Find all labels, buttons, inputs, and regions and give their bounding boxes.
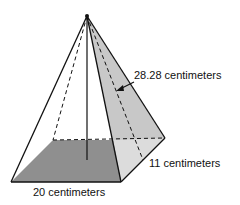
height-segment-label: 11 centimeters — [149, 157, 221, 169]
base-edge-label: 20 centimeters — [33, 186, 106, 198]
apex-point — [85, 14, 89, 18]
slant-height-label: 28.28 centimeters — [134, 69, 222, 81]
pyramid-diagram: 28.28 centimeters 11 centimeters 20 cent… — [0, 0, 240, 205]
